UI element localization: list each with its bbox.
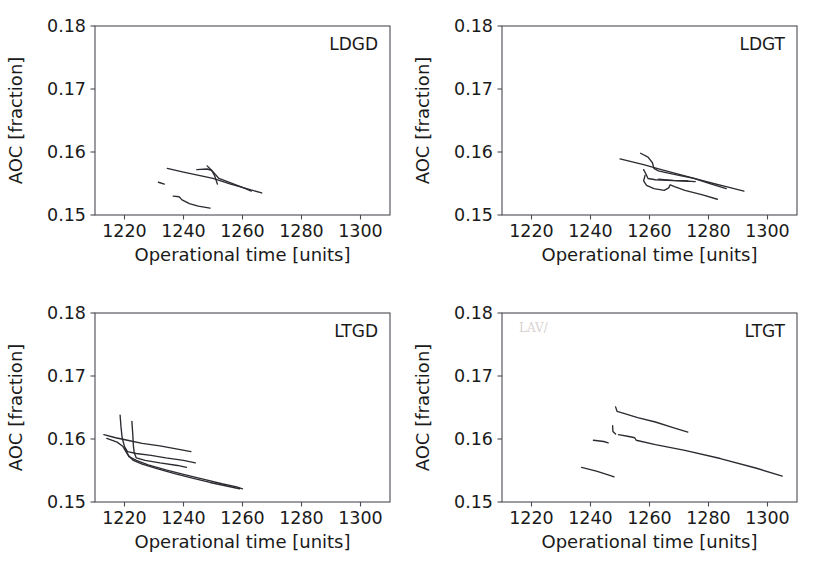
data-trace bbox=[593, 440, 608, 443]
data-trace bbox=[616, 407, 688, 432]
y-tick-label: 0.18 bbox=[454, 16, 493, 36]
x-tick-label: 1260 bbox=[627, 508, 672, 528]
panel-label: LTGD bbox=[334, 321, 378, 341]
axes-frame bbox=[502, 313, 797, 502]
data-trace bbox=[104, 435, 191, 452]
y-axis-title: AOC [fraction] bbox=[5, 57, 26, 185]
y-tick-label: 0.18 bbox=[454, 303, 493, 323]
data-trace bbox=[132, 421, 187, 467]
y-tick-label: 0.15 bbox=[47, 492, 86, 512]
x-tick-label: 1260 bbox=[627, 221, 672, 241]
subplot-ltgt: LAV/122012401260128013000.150.160.170.18… bbox=[407, 287, 814, 574]
x-tick-label: 1280 bbox=[686, 221, 731, 241]
x-tick-label: 1240 bbox=[161, 508, 206, 528]
y-tick-label: 0.16 bbox=[47, 142, 86, 162]
x-tick-label: 1260 bbox=[220, 221, 265, 241]
x-tick-label: 1220 bbox=[509, 221, 554, 241]
data-trace bbox=[582, 467, 614, 476]
x-tick-label: 1300 bbox=[338, 221, 383, 241]
plot-area-ldgt: 122012401260128013000.150.160.170.18Oper… bbox=[407, 0, 814, 287]
plot-area-ltgd: 122012401260128013000.150.160.170.18Oper… bbox=[0, 287, 407, 574]
y-tick-label: 0.15 bbox=[454, 492, 493, 512]
x-tick-label: 1220 bbox=[509, 508, 554, 528]
subplot-ldgt: 122012401260128013000.150.160.170.18Oper… bbox=[407, 0, 814, 287]
x-tick-label: 1300 bbox=[745, 508, 790, 528]
plot-area-ltgt: LAV/122012401260128013000.150.160.170.18… bbox=[407, 287, 814, 574]
y-tick-label: 0.17 bbox=[454, 366, 493, 386]
x-axis-title: Operational time [units] bbox=[541, 244, 757, 265]
y-tick-label: 0.15 bbox=[47, 205, 86, 225]
y-axis-title: AOC [fraction] bbox=[412, 344, 433, 472]
axes-frame bbox=[95, 313, 390, 502]
y-tick-label: 0.16 bbox=[47, 429, 86, 449]
x-tick-label: 1220 bbox=[102, 508, 147, 528]
y-axis-title: AOC [fraction] bbox=[412, 57, 433, 185]
scan-artifact: LAV/ bbox=[519, 321, 549, 335]
x-tick-label: 1300 bbox=[338, 508, 383, 528]
subplot-ldgd: 122012401260128013000.150.160.170.18Oper… bbox=[0, 0, 407, 287]
data-trace bbox=[613, 426, 616, 434]
x-axis-title: Operational time [units] bbox=[134, 244, 350, 265]
data-trace bbox=[173, 196, 210, 208]
x-tick-label: 1240 bbox=[568, 221, 613, 241]
y-tick-label: 0.17 bbox=[454, 79, 493, 99]
panel-label: LDGD bbox=[329, 34, 378, 54]
y-tick-label: 0.18 bbox=[47, 303, 86, 323]
x-tick-label: 1280 bbox=[279, 221, 324, 241]
x-tick-label: 1220 bbox=[102, 221, 147, 241]
x-tick-label: 1260 bbox=[220, 508, 265, 528]
subplot-ltgd: 122012401260128013000.150.160.170.18Oper… bbox=[0, 287, 407, 574]
data-trace bbox=[620, 159, 744, 191]
y-axis-title: AOC [fraction] bbox=[5, 344, 26, 472]
y-tick-label: 0.17 bbox=[47, 366, 86, 386]
figure-canvas: 122012401260128013000.150.160.170.18Oper… bbox=[0, 0, 814, 574]
y-tick-label: 0.16 bbox=[454, 142, 493, 162]
x-tick-label: 1280 bbox=[279, 508, 324, 528]
data-trace bbox=[158, 182, 164, 184]
x-axis-title: Operational time [units] bbox=[134, 531, 350, 552]
data-trace bbox=[644, 175, 718, 199]
y-tick-label: 0.18 bbox=[47, 16, 86, 36]
x-tick-label: 1240 bbox=[161, 221, 206, 241]
data-trace bbox=[619, 435, 783, 477]
x-tick-label: 1300 bbox=[745, 221, 790, 241]
x-tick-label: 1280 bbox=[686, 508, 731, 528]
x-axis-title: Operational time [units] bbox=[541, 531, 757, 552]
data-trace bbox=[107, 438, 243, 488]
panel-label: LDGT bbox=[739, 34, 785, 54]
y-tick-label: 0.15 bbox=[454, 205, 493, 225]
x-tick-label: 1240 bbox=[568, 508, 613, 528]
y-tick-label: 0.16 bbox=[454, 429, 493, 449]
panel-label: LTGT bbox=[745, 321, 786, 341]
plot-area-ldgd: 122012401260128013000.150.160.170.18Oper… bbox=[0, 0, 407, 287]
data-trace bbox=[197, 169, 252, 191]
y-tick-label: 0.17 bbox=[47, 79, 86, 99]
